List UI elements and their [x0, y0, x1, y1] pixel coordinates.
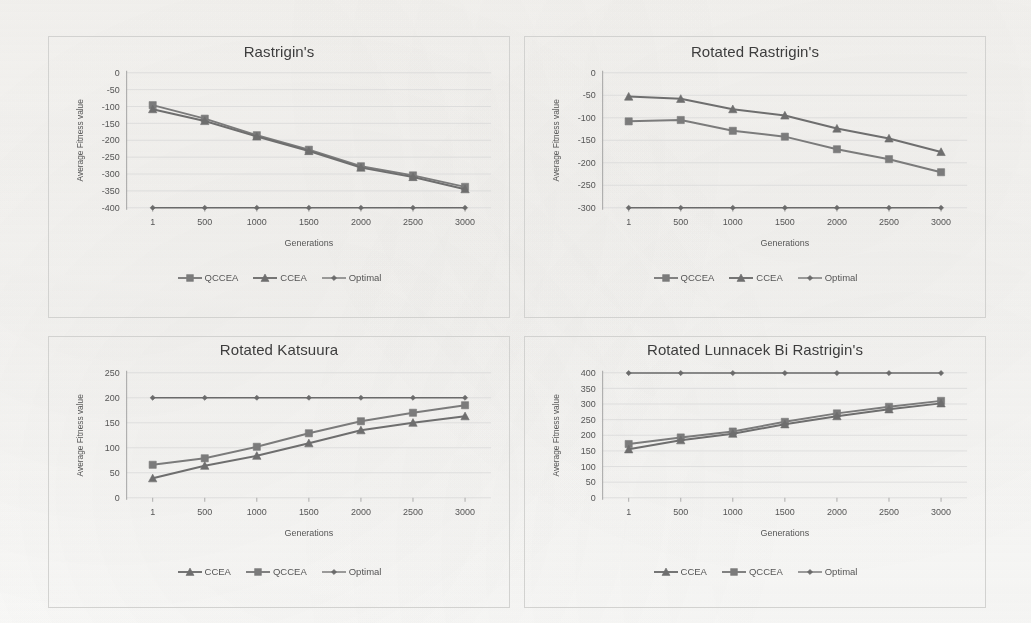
- svg-text:1: 1: [626, 217, 631, 227]
- legend-marker-diamond-icon: [797, 567, 823, 577]
- legend-label: QCCEA: [273, 567, 307, 577]
- legend-marker-diamond-icon: [321, 273, 347, 283]
- svg-text:Generations: Generations: [284, 238, 333, 248]
- legend-item-ccea[interactable]: CCEA: [177, 567, 231, 577]
- svg-text:200: 200: [581, 430, 596, 440]
- svg-text:1500: 1500: [775, 217, 795, 227]
- legend-item-optimal[interactable]: Optimal: [321, 273, 382, 283]
- chart-panel-rotated-lunnacek: Rotated Lunnacek Bi Rastrigin's 05010015…: [524, 336, 986, 608]
- legend-marker-diamond-icon: [797, 273, 823, 283]
- svg-text:500: 500: [197, 217, 212, 227]
- svg-text:-200: -200: [578, 158, 596, 168]
- chart-panel-rastrigins: Rastrigin's 0-50-100-150-200-250-300-350…: [48, 36, 510, 318]
- chart-legend-rotated-rastrigins: QCCEACCEAOptimal: [525, 273, 985, 283]
- svg-text:1: 1: [150, 217, 155, 227]
- svg-text:500: 500: [673, 217, 688, 227]
- svg-text:2500: 2500: [403, 507, 423, 517]
- legend-label: QCCEA: [205, 273, 239, 283]
- svg-text:200: 200: [105, 393, 120, 403]
- legend-item-ccea[interactable]: CCEA: [728, 273, 782, 283]
- chart-panel-rotated-rastrigins: Rotated Rastrigin's 0-50-100-150-200-250…: [524, 36, 986, 318]
- svg-text:1500: 1500: [775, 507, 795, 517]
- svg-text:250: 250: [581, 415, 596, 425]
- svg-text:-350: -350: [102, 186, 120, 196]
- chart-legend-rastrigins: QCCEACCEAOptimal: [49, 273, 509, 283]
- svg-text:3000: 3000: [931, 507, 951, 517]
- svg-text:500: 500: [197, 507, 212, 517]
- legend-marker-triangle-icon: [252, 273, 278, 283]
- svg-text:50: 50: [586, 477, 596, 487]
- svg-text:350: 350: [581, 384, 596, 394]
- svg-text:1000: 1000: [247, 217, 267, 227]
- svg-text:0: 0: [115, 493, 120, 503]
- legend-label: Optimal: [825, 273, 858, 283]
- svg-text:1: 1: [150, 507, 155, 517]
- legend-marker-square-icon: [653, 273, 679, 283]
- svg-text:Generations: Generations: [760, 528, 809, 538]
- svg-text:-50: -50: [107, 85, 120, 95]
- legend-item-optimal[interactable]: Optimal: [797, 273, 858, 283]
- legend-item-qccea[interactable]: QCCEA: [653, 273, 715, 283]
- svg-text:1000: 1000: [723, 217, 743, 227]
- svg-text:1500: 1500: [299, 507, 319, 517]
- svg-text:150: 150: [105, 418, 120, 428]
- legend-label: CCEA: [756, 273, 782, 283]
- svg-text:1000: 1000: [247, 507, 267, 517]
- svg-text:250: 250: [105, 368, 120, 378]
- legend-marker-triangle-icon: [177, 567, 203, 577]
- svg-text:-100: -100: [102, 102, 120, 112]
- svg-text:3000: 3000: [455, 217, 475, 227]
- svg-text:100: 100: [581, 462, 596, 472]
- legend-label: QCCEA: [681, 273, 715, 283]
- svg-text:1500: 1500: [299, 217, 319, 227]
- svg-text:-250: -250: [102, 152, 120, 162]
- svg-text:300: 300: [581, 399, 596, 409]
- svg-text:400: 400: [581, 368, 596, 378]
- legend-item-qccea[interactable]: QCCEA: [721, 567, 783, 577]
- chart-legend-rotated-katsuura: CCEAQCCEAOptimal: [49, 567, 509, 577]
- svg-text:0: 0: [591, 68, 596, 78]
- legend-label: Optimal: [349, 567, 382, 577]
- legend-item-qccea[interactable]: QCCEA: [177, 273, 239, 283]
- legend-item-optimal[interactable]: Optimal: [797, 567, 858, 577]
- legend-item-ccea[interactable]: CCEA: [653, 567, 707, 577]
- svg-text:2000: 2000: [351, 507, 371, 517]
- svg-text:Generations: Generations: [284, 528, 333, 538]
- svg-text:0: 0: [591, 493, 596, 503]
- legend-label: CCEA: [205, 567, 231, 577]
- svg-text:-300: -300: [578, 203, 596, 213]
- legend-marker-square-icon: [721, 567, 747, 577]
- svg-text:2000: 2000: [827, 217, 847, 227]
- legend-label: Optimal: [349, 273, 382, 283]
- svg-text:-250: -250: [578, 180, 596, 190]
- legend-marker-triangle-icon: [728, 273, 754, 283]
- svg-text:-300: -300: [102, 169, 120, 179]
- legend-marker-diamond-icon: [321, 567, 347, 577]
- charts-grid: Rastrigin's 0-50-100-150-200-250-300-350…: [0, 0, 1031, 623]
- legend-marker-triangle-icon: [653, 567, 679, 577]
- legend-marker-square-icon: [177, 273, 203, 283]
- svg-text:-200: -200: [102, 135, 120, 145]
- svg-text:-150: -150: [578, 135, 596, 145]
- legend-item-ccea[interactable]: CCEA: [252, 273, 306, 283]
- legend-label: CCEA: [681, 567, 707, 577]
- svg-text:Generations: Generations: [760, 238, 809, 248]
- chart-panel-rotated-katsuura: Rotated Katsuura 05010015020025015001000…: [48, 336, 510, 608]
- legend-marker-square-icon: [245, 567, 271, 577]
- legend-item-optimal[interactable]: Optimal: [321, 567, 382, 577]
- svg-text:500: 500: [673, 507, 688, 517]
- chart-legend-rotated-lunnacek: CCEAQCCEAOptimal: [525, 567, 985, 577]
- legend-label: Optimal: [825, 567, 858, 577]
- svg-text:2500: 2500: [879, 217, 899, 227]
- svg-text:2000: 2000: [351, 217, 371, 227]
- svg-text:Average Fitness value: Average Fitness value: [551, 394, 561, 477]
- svg-text:1000: 1000: [723, 507, 743, 517]
- legend-item-qccea[interactable]: QCCEA: [245, 567, 307, 577]
- svg-text:Average Fitness value: Average Fitness value: [75, 394, 85, 477]
- svg-text:Average Fitness value: Average Fitness value: [75, 99, 85, 182]
- svg-text:2000: 2000: [827, 507, 847, 517]
- svg-text:-400: -400: [102, 203, 120, 213]
- svg-text:3000: 3000: [931, 217, 951, 227]
- svg-text:100: 100: [105, 443, 120, 453]
- svg-text:50: 50: [110, 468, 120, 478]
